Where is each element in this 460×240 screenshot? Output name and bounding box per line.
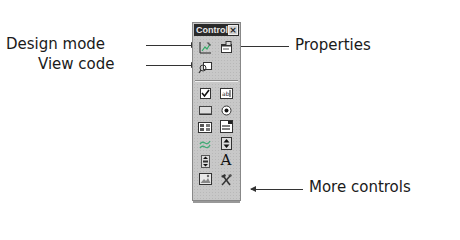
text-box-icon: ab <box>220 88 233 99</box>
command-button-button[interactable] <box>197 103 213 117</box>
view-code-icon <box>198 61 212 74</box>
properties-icon <box>220 41 233 54</box>
toggle-button-button[interactable] <box>197 137 213 151</box>
label-button[interactable]: A <box>218 153 234 167</box>
more-controls-callout: More controls <box>309 180 411 195</box>
label-icon: A <box>221 153 232 168</box>
properties-button[interactable] <box>218 40 234 54</box>
view-code-arrow <box>146 65 196 66</box>
option-button-icon <box>221 105 232 116</box>
close-button[interactable]: × <box>228 25 238 35</box>
scroll-bar-button[interactable] <box>197 154 213 168</box>
control-toolbox: Control × <box>192 22 241 201</box>
more-controls-arrow <box>251 189 303 190</box>
image-icon <box>199 173 212 185</box>
design-mode-button[interactable] <box>197 40 213 54</box>
view-code-button[interactable] <box>197 60 213 74</box>
image-button[interactable] <box>197 172 213 186</box>
more-controls-icon <box>219 173 233 186</box>
scroll-bar-icon <box>201 155 210 168</box>
toolbox-bottom-edge <box>193 201 240 203</box>
check-box-button[interactable] <box>197 86 213 100</box>
properties-callout: Properties <box>295 38 371 53</box>
spin-button-icon <box>221 137 232 150</box>
text-box-button[interactable]: ab <box>218 86 234 100</box>
list-box-icon <box>198 122 212 133</box>
combo-box-icon <box>220 120 233 133</box>
more-controls-button[interactable] <box>218 172 234 186</box>
combo-box-button[interactable] <box>218 119 234 133</box>
toolbox-titlebar[interactable]: Control × <box>194 24 239 36</box>
option-button-button[interactable] <box>218 103 234 117</box>
design-mode-arrow <box>146 45 196 46</box>
spin-button-button[interactable] <box>218 136 234 150</box>
list-box-button[interactable] <box>197 120 213 134</box>
design-mode-icon <box>199 41 212 54</box>
command-button-icon <box>199 106 212 115</box>
toolbar-separator <box>195 80 238 82</box>
view-code-callout: View code <box>38 57 115 72</box>
design-mode-callout: Design mode <box>6 37 105 52</box>
toggle-button-icon <box>199 138 211 150</box>
toolbox-title: Control <box>196 26 228 35</box>
check-box-icon <box>200 88 211 99</box>
svg-text:ab: ab <box>222 90 230 97</box>
